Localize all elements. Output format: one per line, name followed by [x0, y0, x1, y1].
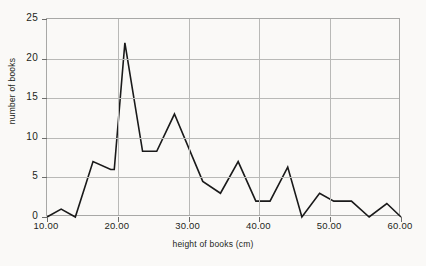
y-axis-tick-label: 25 [0, 12, 38, 23]
x-axis-tick-label: 40.00 [228, 220, 288, 231]
chart-container: 051015202510.0020.0030.0040.0050.0060.00… [0, 0, 426, 266]
x-axis-title: height of books (cm) [0, 239, 426, 249]
x-axis-tick-label: 10.00 [16, 220, 76, 231]
y-axis-tick-label: 10 [0, 131, 38, 142]
x-axis-tick-label: 30.00 [158, 220, 218, 231]
y-axis-tick-label: 5 [0, 170, 38, 181]
y-axis-tick-label: 20 [0, 52, 38, 63]
axis-labels-layer: 051015202510.0020.0030.0040.0050.0060.00 [0, 0, 426, 266]
x-axis-tick-label: 20.00 [87, 220, 147, 231]
x-axis-tick-label: 50.00 [299, 220, 359, 231]
y-axis-title: number of books [7, 41, 17, 141]
x-axis-tick-label: 60.00 [370, 220, 426, 231]
y-axis-tick-label: 15 [0, 91, 38, 102]
